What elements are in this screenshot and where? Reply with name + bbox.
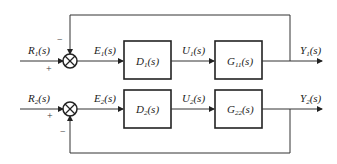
plant-g11-block: [215, 41, 262, 79]
label-u2: U2(s): [182, 92, 205, 106]
summing-junction-2: [63, 102, 77, 116]
label-y1: Y1(s): [300, 44, 322, 58]
loop-1: R1(s) + − E1(s) D1(s) U1(s) G11(s) Y1(s): [20, 15, 322, 79]
label-y2: Y2(s): [300, 92, 322, 106]
block-diagram: R1(s) + − E1(s) D1(s) U1(s) G11(s) Y1(s)…: [0, 0, 337, 164]
summing-junction-1: [63, 54, 77, 68]
label-u1: U1(s): [182, 44, 205, 58]
sign-plus-1: +: [46, 63, 52, 74]
label-e1: E1(s): [93, 44, 116, 58]
label-r1: R1(s): [27, 44, 50, 58]
sign-minus-1: −: [57, 34, 63, 45]
sign-minus-2: −: [60, 126, 66, 137]
label-r2: R2(s): [27, 92, 50, 106]
sign-plus-2: +: [47, 110, 53, 121]
label-e2: E2(s): [93, 92, 116, 106]
label-d1: D1(s): [135, 55, 159, 69]
label-d2: D2(s): [135, 103, 159, 117]
loop-2: R2(s) + − E2(s) D2(s) U2(s) G22(s) Y2(s): [20, 90, 322, 153]
